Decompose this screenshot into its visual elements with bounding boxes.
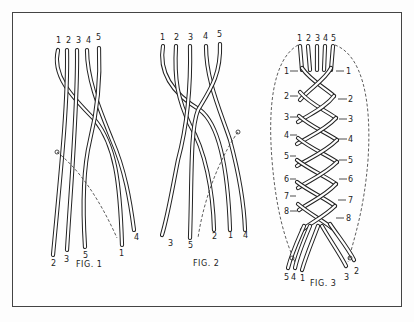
fig1-top-label-4: 4 <box>86 36 91 45</box>
fig1-bottom-label-1: 1 <box>119 249 124 258</box>
fig3-right-step-3: 3 <box>348 115 353 124</box>
fig3-left-step-8: 8 <box>284 207 289 216</box>
fig2-top-label-4: 4 <box>203 32 208 41</box>
left-step-arrows <box>290 71 298 211</box>
fig3-right-step-5: 5 <box>348 156 353 165</box>
fig2-top-label-3: 3 <box>188 33 193 42</box>
fig3-left-step-6: 6 <box>284 175 289 184</box>
fig3-caption: FIG. 3 <box>310 279 336 288</box>
fig3-left-step-1: 1 <box>284 67 289 76</box>
figure-3: 1 2 3 4 5 1 2 3 4 5 6 7 8 1 2 3 4 5 6 7 … <box>271 34 369 288</box>
fig3-right-step-6: 6 <box>348 175 353 184</box>
fig3-left-step-7: 7 <box>284 192 289 201</box>
fig3-bottom-label-3: 3 <box>344 273 349 282</box>
fig3-left-step-3: 3 <box>284 113 289 122</box>
figure-2: 1 2 3 4 5 3 5 2 1 4 FIG. 2 <box>160 30 248 268</box>
fig2-bottom-label-4: 4 <box>243 231 248 240</box>
strands-fig2 <box>162 44 245 238</box>
fig1-bottom-label-5: 5 <box>83 251 88 260</box>
fig3-bottom-label-2: 2 <box>354 267 359 276</box>
envelope-dashed-right <box>335 45 369 262</box>
fig2-bottom-label-1: 1 <box>228 231 233 240</box>
figure-1: 1 2 3 4 5 2 3 5 1 4 FIG. 1 <box>51 33 139 269</box>
fig3-top-label-3: 3 <box>315 34 320 43</box>
fig1-bottom-label-3: 3 <box>64 255 69 264</box>
fig1-caption: FIG. 1 <box>76 260 102 269</box>
fig3-top-label-2: 2 <box>306 34 311 43</box>
braid-weave <box>297 68 337 230</box>
fig1-top-label-5: 5 <box>96 33 101 42</box>
fig2-top-label-2: 2 <box>174 33 179 42</box>
fig2-top-label-1: 1 <box>160 33 165 42</box>
fig1-bottom-label-4: 4 <box>134 233 139 242</box>
fig3-right-step-4: 4 <box>348 135 353 144</box>
fig3-bottom-label-5: 5 <box>284 273 289 282</box>
braiding-diagram: .s-out { fill:none; stroke:#222; stroke-… <box>0 0 414 322</box>
fig1-top-label-1: 1 <box>56 36 61 45</box>
fig2-bottom-label-3: 3 <box>168 239 173 248</box>
fig2-caption: FIG. 2 <box>193 259 219 268</box>
fig3-left-step-4: 4 <box>284 131 289 140</box>
fig3-right-step-2: 2 <box>348 95 353 104</box>
fig3-top-label-1: 1 <box>297 34 302 43</box>
fig2-top-label-5: 5 <box>217 30 222 39</box>
fig3-left-step-2: 2 <box>284 92 289 101</box>
fig3-right-step-8: 8 <box>346 214 351 223</box>
braid-body <box>288 46 354 270</box>
fig3-right-step-1: 1 <box>346 67 351 76</box>
fig3-bottom-label-1: 1 <box>300 274 305 283</box>
fig2-bottom-label-2: 2 <box>212 232 217 241</box>
right-step-arrows <box>336 71 347 218</box>
fig1-bottom-label-2: 2 <box>51 259 56 268</box>
strands-fig1 <box>53 48 134 255</box>
fig3-right-step-7: 7 <box>348 196 353 205</box>
fig2-bottom-label-5: 5 <box>188 241 193 250</box>
fig3-left-step-5: 5 <box>284 152 289 161</box>
fig1-top-label-2: 2 <box>66 36 71 45</box>
fig3-bottom-label-4: 4 <box>291 273 296 282</box>
fig3-top-label-5: 5 <box>331 34 336 43</box>
fig3-top-label-4: 4 <box>323 34 328 43</box>
fig1-top-label-3: 3 <box>76 36 81 45</box>
